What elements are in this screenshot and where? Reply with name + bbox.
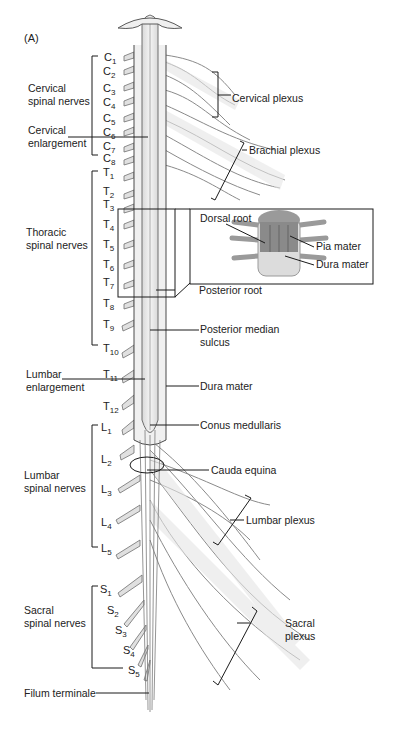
segment-s3: S3 — [115, 624, 127, 641]
cauda-equina-label: Cauda equina — [211, 464, 276, 477]
segment-s1: S1 — [100, 583, 112, 600]
posterior-median-sulcus-label: Posterior median sulcus — [200, 323, 279, 349]
segment-t1: T1 — [103, 166, 114, 183]
segment-l3: L3 — [101, 483, 112, 500]
segment-t8: T8 — [103, 297, 114, 314]
label-line: enlargement — [26, 381, 84, 394]
label-line: spinal nerves — [28, 95, 90, 108]
cervical-enlargement-label: Cervical enlargement — [28, 124, 86, 150]
sacral-spinal-nerves-label: Sacral spinal nerves — [24, 604, 86, 630]
inset-pia-mater-label: Pia mater — [316, 240, 361, 253]
segment-s5: S5 — [128, 664, 140, 681]
dura-mater-label: Dura mater — [200, 380, 253, 393]
filum-terminale-label: Filum terminale — [24, 687, 96, 700]
segment-s2: S2 — [107, 604, 119, 621]
lumbar-spinal-nerves-label: Lumbar spinal nerves — [24, 469, 86, 495]
lumbar-enlargement-label: Lumbar enlargement — [26, 368, 84, 394]
segment-t12: T12 — [103, 400, 119, 417]
label-line: Sacral — [24, 604, 86, 617]
thoracic-spinal-nerves-label: Thoracic spinal nerves — [26, 226, 88, 252]
label-line: Lumbar — [26, 368, 84, 381]
label-line: spinal nerves — [24, 482, 86, 495]
conus-medullaris-label: Conus medullaris — [200, 419, 281, 432]
segment-t10: T10 — [103, 342, 119, 359]
cervical-plexus-label: Cervical plexus — [232, 92, 303, 105]
segment-l2: L2 — [101, 453, 112, 470]
label-line: enlargement — [28, 137, 86, 150]
sacral-plexus-label: Sacral plexus — [285, 617, 315, 643]
segment-l5: L5 — [101, 542, 112, 559]
label-line: Thoracic — [26, 226, 88, 239]
label-line: Cervical — [28, 82, 90, 95]
segment-c2: C2 — [103, 65, 115, 82]
label-line: Lumbar — [24, 469, 86, 482]
inset-dorsal-root-label: Dorsal root — [200, 212, 251, 225]
label-line: Sacral — [285, 617, 315, 630]
segment-t11: T11 — [103, 368, 118, 385]
inset-dura-mater-label: Dura mater — [316, 258, 369, 271]
segment-s4: S4 — [123, 644, 135, 661]
segment-t7: T7 — [103, 276, 114, 293]
segment-t4: T4 — [103, 218, 114, 235]
segment-t5: T5 — [103, 238, 114, 255]
label-line: sulcus — [200, 336, 279, 349]
segment-t6: T6 — [103, 258, 114, 275]
label-line: plexus — [285, 630, 315, 643]
segment-t9: T9 — [103, 318, 114, 335]
lumbar-plexus-label: Lumbar plexus — [246, 514, 315, 527]
cervical-spinal-nerves-label: Cervical spinal nerves — [28, 82, 90, 108]
segment-t3: T3 — [103, 198, 114, 215]
segment-l1: L1 — [101, 421, 112, 438]
label-line: spinal nerves — [26, 239, 88, 252]
panel-label: (A) — [24, 32, 39, 45]
label-line: spinal nerves — [24, 617, 86, 630]
brachial-plexus-label: Brachial plexus — [249, 144, 320, 157]
label-line: Cervical — [28, 124, 86, 137]
label-line: Posterior median — [200, 323, 279, 336]
posterior-root-label: Posterior root — [199, 284, 262, 297]
segment-c4: C4 — [103, 96, 115, 113]
segment-l4: L4 — [101, 516, 112, 533]
